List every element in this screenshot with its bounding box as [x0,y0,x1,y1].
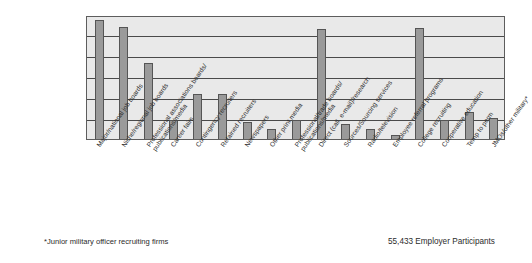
participants-count: 55,433 Employer Participants [388,237,495,246]
bar [415,28,424,139]
category-axis-labels: Major/national job boardsNiche/regional … [0,141,532,251]
bar [95,20,104,139]
bar-slot [87,17,112,139]
bar-chart: Major/national job boardsNiche/regional … [0,0,532,263]
bar [119,27,128,139]
footnote: *Junior military officer recruiting firm… [44,237,168,246]
